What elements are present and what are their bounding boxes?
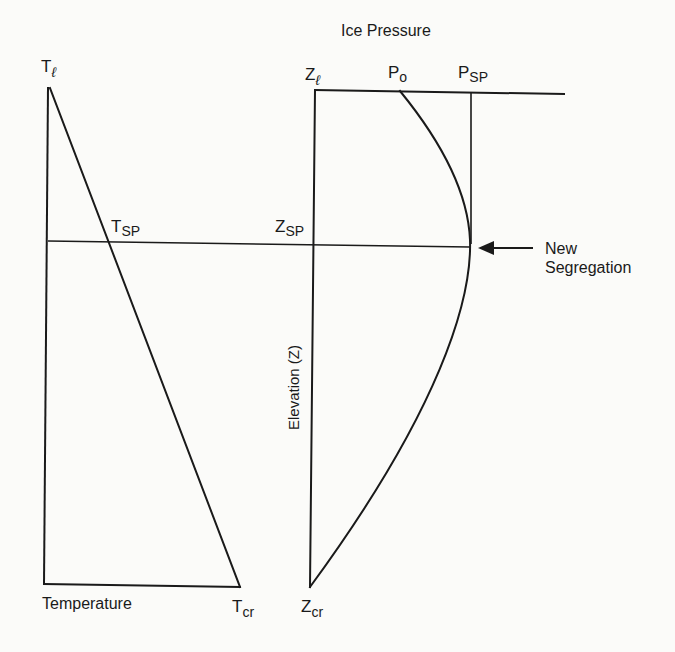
temperature-panel: Tℓ TSP Temperature Tcr (41, 57, 254, 620)
label-z-sp: ZSP (275, 217, 304, 239)
left-arrow-icon (478, 241, 532, 255)
label-z-l: Zℓ (305, 65, 320, 88)
segregation-level-line (48, 241, 470, 247)
temperature-baseline (44, 584, 240, 587)
ice-pressure-curve (310, 91, 470, 587)
label-t-cr: Tcr (232, 597, 254, 620)
temperature-axis-label: Temperature (42, 595, 132, 612)
annotation-line-2: Segregation (545, 259, 631, 276)
label-z-cr: Zcr (301, 597, 323, 620)
elevation-axis (310, 90, 315, 587)
diagram-title: Ice Pressure (341, 22, 431, 39)
label-p-sp: PSP (458, 63, 488, 85)
label-t-sp: TSP (111, 217, 140, 239)
pressure-panel: Zℓ Po PSP ZSP Elevation (Z) Zcr (275, 63, 564, 620)
ice-pressure-diagram: Ice Pressure Tℓ TSP Temperature Tcr Zℓ P… (0, 0, 675, 652)
temperature-vertical-axis (44, 88, 48, 584)
annotation-line-1: New (545, 240, 577, 257)
label-p-o: Po (388, 63, 407, 85)
pressure-top-line (315, 90, 564, 94)
elevation-axis-label: Elevation (Z) (285, 345, 302, 430)
temperature-gradient-line (50, 88, 240, 587)
label-t-l: Tℓ (41, 57, 56, 80)
new-segregation-annotation: New Segregation (478, 240, 631, 276)
